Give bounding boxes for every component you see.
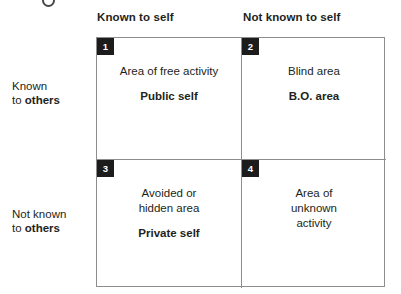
quadrant-2-number-badge: 2 bbox=[242, 38, 259, 55]
quadrant-2-blind-area: 2 Blind area B.O. area bbox=[242, 38, 386, 160]
row-label-not-known-to-others-line2-prefix: to bbox=[12, 222, 25, 234]
quadrant-1-description: Area of free activity bbox=[97, 64, 241, 79]
quadrant-4-number-badge: 4 bbox=[242, 160, 259, 177]
quadrant-2-description: Blind area bbox=[242, 64, 386, 79]
row-label-not-known-to-others-line2-strong: others bbox=[25, 222, 60, 234]
cut-off-bullet-mark-icon bbox=[42, 0, 55, 7]
column-header-not-known-to-self: Not known to self bbox=[243, 11, 341, 24]
row-label-known-to-others-line1: Known bbox=[12, 80, 47, 92]
quadrant-3-private-self: 3 Avoided or hidden area Private self bbox=[97, 160, 242, 288]
row-label-known-to-others: Known to others bbox=[12, 79, 60, 107]
quadrant-2-term: B.O. area bbox=[242, 89, 386, 104]
johari-matrix: 1 Area of free activity Public self 2 Bl… bbox=[96, 37, 385, 287]
row-label-not-known-to-others-line1: Not known bbox=[12, 208, 66, 220]
johari-window-diagram: Known to self Not known to self Known to… bbox=[0, 0, 401, 294]
row-label-known-to-others-line2-strong: others bbox=[25, 94, 60, 106]
quadrant-4-description: Area of unknown activity bbox=[242, 186, 386, 231]
quadrant-3-term: Private self bbox=[97, 226, 241, 241]
quadrant-1-public-self: 1 Area of free activity Public self bbox=[97, 38, 242, 160]
quadrant-4-unknown-activity: 4 Area of unknown activity bbox=[242, 160, 386, 288]
quadrant-1-term: Public self bbox=[97, 89, 241, 104]
quadrant-1-number-badge: 1 bbox=[97, 38, 114, 55]
column-header-known-to-self: Known to self bbox=[97, 11, 174, 24]
row-label-known-to-others-line2-prefix: to bbox=[12, 94, 25, 106]
row-label-not-known-to-others: Not known to others bbox=[12, 207, 66, 235]
quadrant-3-description: Avoided or hidden area bbox=[97, 186, 241, 216]
quadrant-3-number-badge: 3 bbox=[97, 160, 114, 177]
